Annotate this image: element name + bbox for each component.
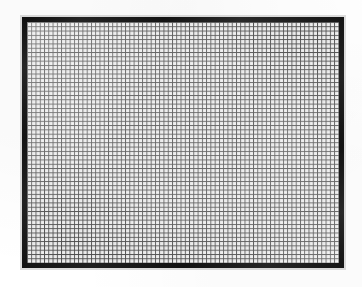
- frame-edge-top: [22, 17, 344, 22]
- frame-edge-left: [22, 17, 27, 268]
- image-canvas: [0, 0, 362, 287]
- frame-edge-bottom: [22, 263, 344, 268]
- mesh-grid-lines: [27, 22, 339, 263]
- frame-edge-right: [339, 17, 344, 268]
- mesh-panel: [22, 17, 344, 268]
- mesh-interior: [27, 22, 339, 263]
